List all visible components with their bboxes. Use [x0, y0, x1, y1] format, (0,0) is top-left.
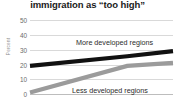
y-tick-20: 20: [5, 65, 27, 66]
label-less-developed-regions: Less developed regions: [72, 86, 148, 95]
y-tick-0: 0: [5, 94, 27, 95]
y-tick-10: 10: [5, 79, 27, 80]
y-tick-30: 30: [5, 50, 27, 51]
y-axis-label: Percent: [6, 32, 11, 62]
chart-figure: immigration as “too high” Percent 50 40 …: [0, 0, 175, 105]
chart-title: immigration as “too high”: [0, 0, 175, 10]
series-lines: [30, 14, 173, 95]
label-more-developed-regions: More developed regions: [76, 38, 153, 47]
plot-area: 50 40 30 20 10 0: [30, 14, 173, 95]
y-tick-50: 50: [5, 20, 27, 21]
y-tick-40: 40: [5, 35, 27, 36]
